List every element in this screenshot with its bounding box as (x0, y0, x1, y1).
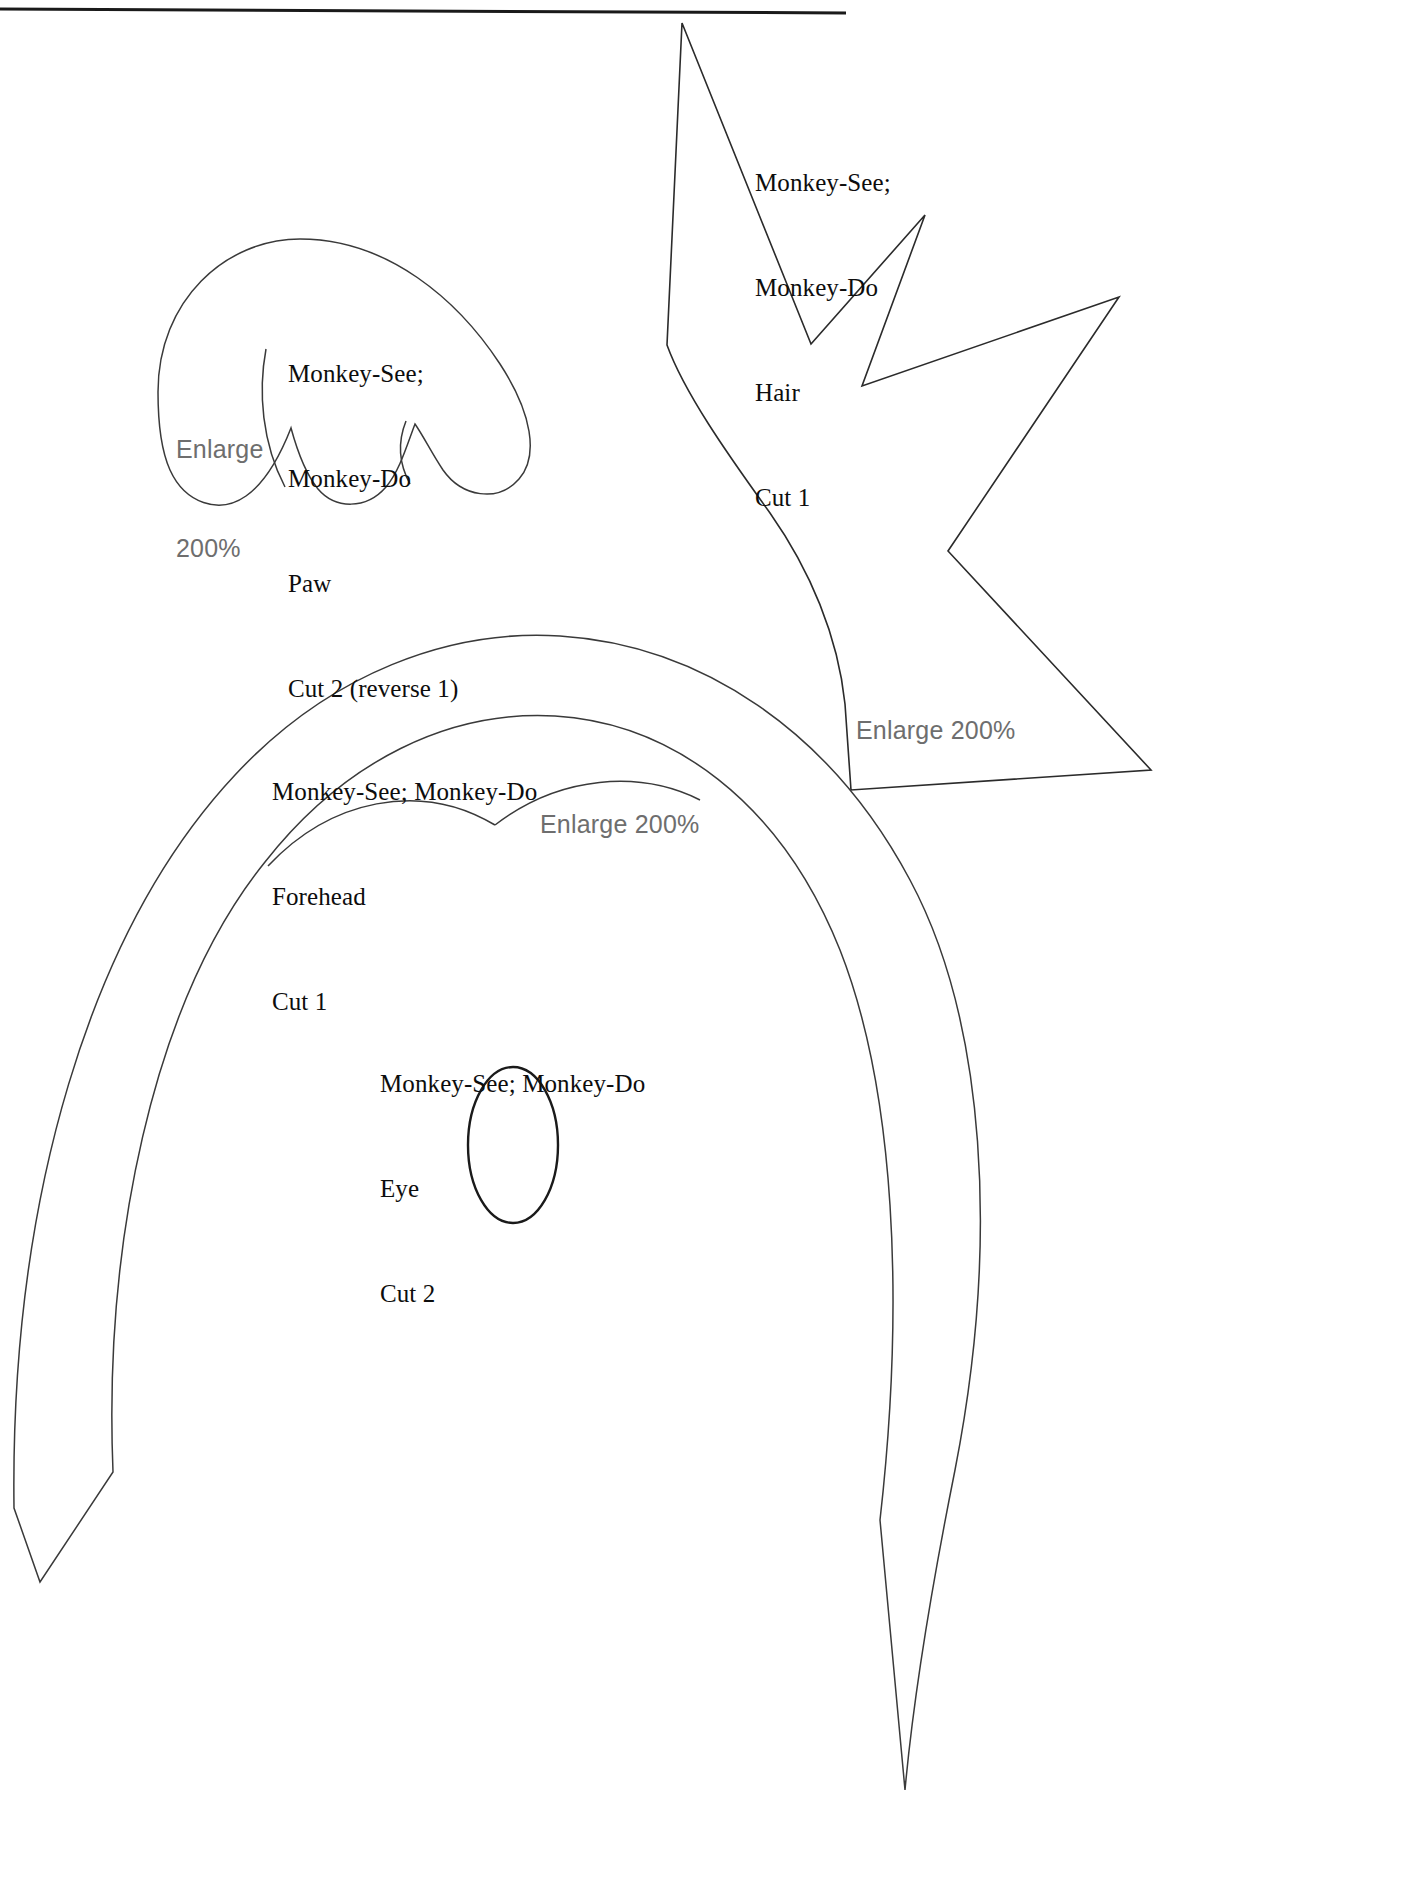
eye-label-line-1: Monkey-See; Monkey-Do (380, 1066, 645, 1101)
hair-label-line-3: Hair (755, 375, 891, 410)
paw-enlarge-note-line-1: Enlarge (176, 433, 264, 466)
pattern-sheet: Monkey-See; Monkey-Do Hair Cut 1 Monkey-… (0, 0, 1416, 1878)
paw-label-line-2: Monkey-Do (288, 461, 458, 496)
forehead-label-line-2: Forehead (272, 879, 537, 914)
paw-enlarge-note-line-2: 200% (176, 532, 264, 565)
hair-label-line-1: Monkey-See; (755, 165, 891, 200)
forehead-enlarge-note: Enlarge 200% (540, 742, 699, 907)
forehead-enlarge-note-text: Enlarge 200% (540, 808, 699, 841)
eye-label-block: Monkey-See; Monkey-Do Eye Cut 2 (380, 996, 645, 1381)
hair-label-line-4: Cut 1 (755, 480, 891, 515)
paw-label-line-3: Paw (288, 566, 458, 601)
hair-enlarge-note: Enlarge 200% (856, 648, 1015, 813)
top-rule-divider (0, 9, 846, 13)
eye-label-line-3: Cut 2 (380, 1276, 645, 1311)
paw-lobe-divider-left (262, 349, 285, 487)
paw-label-line-1: Monkey-See; (288, 356, 458, 391)
hair-label-block: Monkey-See; Monkey-Do Hair Cut 1 (755, 95, 891, 585)
paw-enlarge-note: Enlarge 200% (176, 367, 264, 631)
paw-label-block: Monkey-See; Monkey-Do Paw Cut 2 (reverse… (288, 286, 458, 776)
hair-label-line-2: Monkey-Do (755, 270, 891, 305)
paw-label-line-4: Cut 2 (reverse 1) (288, 671, 458, 706)
forehead-label-line-1: Monkey-See; Monkey-Do (272, 774, 537, 809)
pattern-drawing-canvas (0, 0, 1416, 1878)
eye-label-line-2: Eye (380, 1171, 645, 1206)
hair-enlarge-note-text: Enlarge 200% (856, 714, 1015, 747)
